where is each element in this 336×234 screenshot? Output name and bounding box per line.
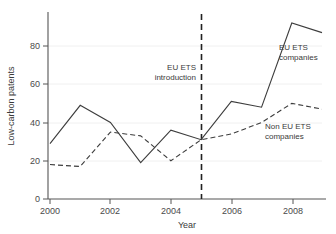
x-tick-label-2002: 2002 [100, 206, 120, 216]
x-axis-title: Year [178, 220, 196, 230]
x-tick-label-2008: 2008 [283, 206, 303, 216]
annotation-eu-ets-companies-line1: EU ETS [279, 43, 308, 52]
x-axis: 2000 2002 2004 2006 2008 Year [40, 199, 326, 230]
annotation-non-eu-ets-companies: Non EU ETS companies [265, 122, 311, 141]
y-tick-label-20: 20 [30, 156, 40, 166]
annotation-eu-ets-introduction: EU ETS introduction [155, 63, 196, 82]
annotation-eu-ets-introduction-line1: EU ETS [167, 63, 196, 72]
annotation-eu-ets-companies-line2: companies [279, 53, 318, 62]
annotation-non-eu-ets-companies-line2: companies [265, 132, 304, 141]
y-tick-label-60: 60 [30, 79, 40, 89]
y-axis-title: Low-carbon patents [6, 66, 16, 146]
annotation-non-eu-ets-companies-line1: Non EU ETS [265, 122, 311, 131]
chart-container: 80 60 40 20 0 Low-carbon patents 2000 20… [0, 0, 336, 234]
y-tick-label-40: 40 [30, 118, 40, 128]
y-tick-label-0: 0 [35, 194, 40, 204]
x-tick-label-2006: 2006 [222, 206, 242, 216]
x-tick-label-2000: 2000 [40, 206, 60, 216]
line-chart: 80 60 40 20 0 Low-carbon patents 2000 20… [0, 0, 336, 234]
annotation-eu-ets-introduction-line2: introduction [155, 73, 196, 82]
y-axis: 80 60 40 20 0 Low-carbon patents [6, 12, 48, 204]
x-tick-label-2004: 2004 [161, 206, 181, 216]
y-tick-label-80: 80 [30, 41, 40, 51]
